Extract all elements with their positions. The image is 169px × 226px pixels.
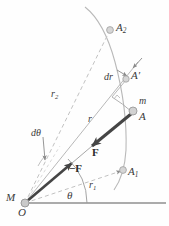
radius-r1-dashed bbox=[25, 171, 121, 203]
angle-dtheta-arc bbox=[38, 157, 44, 166]
label-A: A bbox=[139, 111, 146, 122]
label-A-prime: A′ bbox=[131, 70, 140, 81]
dtheta-leader-arrow bbox=[43, 137, 45, 160]
label-r1: r1 bbox=[89, 180, 96, 191]
radius-r2-dashed bbox=[25, 30, 110, 203]
physics-diagram: A2 dr A′ m A r2 r dθ F −F A1 r1 θ M O bbox=[0, 0, 169, 226]
label-origin-O: O bbox=[18, 207, 26, 218]
point-marker-A1 bbox=[120, 167, 127, 174]
label-A1: A1 bbox=[128, 166, 138, 179]
point-marker-A bbox=[129, 107, 137, 115]
force-vector-minus-F bbox=[26, 163, 72, 202]
label-dr: dr bbox=[104, 72, 113, 82]
dr-segment bbox=[112, 80, 126, 97]
label-theta: θ bbox=[67, 190, 72, 201]
right-angle-tick bbox=[114, 95, 120, 99]
force-vector-F bbox=[92, 114, 131, 146]
label-force-minus-F: −F bbox=[69, 163, 82, 174]
label-r2: r2 bbox=[51, 89, 58, 100]
a2-leader-arrow bbox=[133, 58, 142, 68]
point-marker-A2 bbox=[107, 27, 114, 34]
label-force-F: F bbox=[92, 147, 99, 158]
point-marker-A-prime bbox=[123, 76, 129, 82]
radius-r-plus-dr-ray bbox=[25, 62, 138, 203]
label-mass-M: M bbox=[6, 192, 15, 203]
label-dtheta: dθ bbox=[31, 128, 41, 138]
label-r: r bbox=[88, 114, 92, 124]
dtheta-construction-ray bbox=[25, 146, 60, 203]
label-A2: A2 bbox=[116, 22, 126, 35]
label-mass-m: m bbox=[139, 96, 146, 106]
